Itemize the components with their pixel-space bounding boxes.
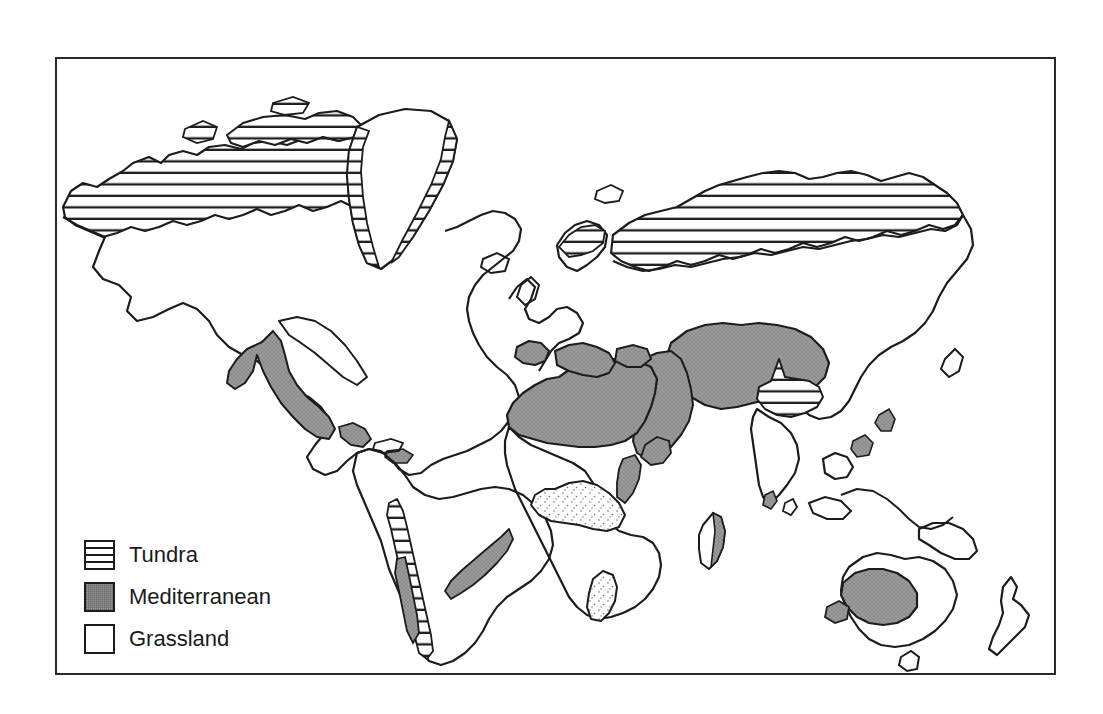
mediterranean-southeast-brazil [445, 529, 513, 599]
mediterranean-australia-southwest [825, 601, 849, 623]
mediterranean-borneo-patch [851, 435, 873, 457]
grassland-swatch-icon [84, 624, 115, 654]
sri-lanka [783, 499, 797, 515]
japan-islands [941, 349, 963, 377]
legend-item-grassland[interactable]: Grassland [84, 618, 334, 660]
tundra-siberia [611, 171, 963, 271]
southeast-asia-islands [823, 453, 853, 479]
tundra-swatch-icon [84, 540, 115, 570]
mediterranean-italy-balkans [555, 343, 615, 377]
tundra-arctic-island-small-1 [183, 121, 217, 143]
indonesia-island-chain [809, 497, 851, 519]
arctic-island-svalbard [595, 185, 623, 203]
south-america-mainland [353, 449, 553, 665]
tundra-scandinavia [559, 225, 605, 257]
biome-map-figure: Some Biomes of the World [0, 0, 1103, 714]
legend-label-mediterranean: Mediterranean [129, 584, 271, 610]
mediterranean-iberia-europe [515, 341, 549, 365]
legend-item-tundra[interactable]: Tundra [84, 534, 334, 576]
mediterranean-mexico-south [339, 423, 371, 447]
map-legend: Tundra Mediterranean Grassland [84, 534, 334, 660]
legend-label-tundra: Tundra [129, 542, 198, 568]
north-america-mainland [63, 211, 521, 475]
mediterranean-australia-interior [841, 569, 917, 625]
new-zealand [989, 577, 1029, 655]
tasmania [899, 651, 919, 671]
mediterranean-east-africa-strip [617, 455, 641, 503]
legend-label-grassland: Grassland [129, 626, 229, 652]
mediterranean-india-west [763, 491, 777, 509]
tundra-arctic-island-small-2 [271, 97, 309, 115]
grassland-southern-africa [587, 571, 617, 621]
grassland-sahel [531, 481, 625, 531]
india-subcontinent [751, 409, 799, 503]
mediterranean-philippines-patch [875, 409, 895, 431]
kamchatka-east-asia [801, 215, 973, 419]
legend-item-mediterranean[interactable]: Mediterranean [84, 576, 334, 618]
iceland [481, 253, 509, 273]
mediterranean-swatch-icon [84, 582, 115, 612]
mediterranean-anatolia [615, 345, 651, 367]
